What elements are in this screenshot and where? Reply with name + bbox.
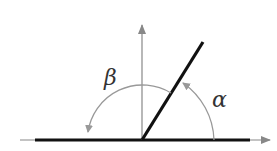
angle-diagram: β α xyxy=(0,0,277,151)
beta-arc xyxy=(88,85,171,132)
alpha-arc xyxy=(183,83,214,140)
terminal-ray xyxy=(142,42,203,140)
alpha-label: α xyxy=(212,87,227,112)
beta-label: β xyxy=(103,65,117,90)
